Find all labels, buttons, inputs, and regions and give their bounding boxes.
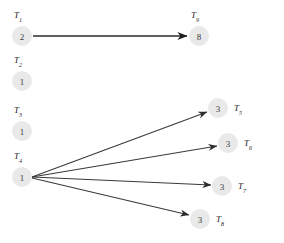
node-label-sub-t9: 9 xyxy=(196,17,199,23)
node-label-sub-t7: 7 xyxy=(243,188,247,194)
node-value-t4: 1 xyxy=(20,173,25,183)
node-label-t8: T8 xyxy=(216,214,224,227)
node-label-t9: T9 xyxy=(191,10,199,23)
edge-t4-to-t8 xyxy=(32,178,189,215)
node-label-sub-t1: 1 xyxy=(19,17,22,23)
node-label-sub-t8: 8 xyxy=(221,221,224,227)
node-value-t8: 3 xyxy=(198,215,203,225)
nodes-layer: 2T11T21T31T43T53T63T73T88T9 xyxy=(12,10,252,229)
node-value-t6: 3 xyxy=(226,139,231,149)
graph-node-t6[interactable]: 3T6 xyxy=(218,133,252,153)
edge-t4-to-t6 xyxy=(32,146,217,177)
node-value-t1: 2 xyxy=(20,32,25,42)
node-value-t5: 3 xyxy=(216,104,221,114)
node-label-sub-t2: 2 xyxy=(19,62,22,68)
graph-node-t4[interactable]: 1T4 xyxy=(12,151,32,187)
node-value-t3: 1 xyxy=(20,127,25,137)
node-label-t6: T6 xyxy=(244,138,252,151)
node-value-t9: 8 xyxy=(197,32,202,42)
node-label-t3: T3 xyxy=(14,105,22,118)
node-label-sub-t3: 3 xyxy=(18,112,22,118)
graph-node-t5[interactable]: 3T5 xyxy=(208,98,242,118)
node-label-sub-t5: 5 xyxy=(239,110,242,116)
graph-node-t8[interactable]: 3T8 xyxy=(190,209,224,229)
edges-layer xyxy=(32,36,217,215)
graph-node-t9[interactable]: 8T9 xyxy=(189,10,209,46)
node-label-t7: T7 xyxy=(238,181,247,194)
node-label-t4: T4 xyxy=(14,151,22,164)
node-label-sub-t6: 6 xyxy=(249,145,252,151)
node-value-t7: 3 xyxy=(220,182,225,192)
node-label-t2: T2 xyxy=(14,55,22,68)
graph-canvas: 2T11T21T31T43T53T63T73T88T9 xyxy=(0,0,284,243)
graph-node-t7[interactable]: 3T7 xyxy=(212,176,247,196)
node-value-t2: 1 xyxy=(20,77,25,87)
edge-t4-to-t5 xyxy=(32,112,207,177)
node-label-sub-t4: 4 xyxy=(19,158,22,164)
graph-node-t1[interactable]: 2T1 xyxy=(12,10,32,46)
graph-diagram: 2T11T21T31T43T53T63T73T88T9 xyxy=(0,0,284,243)
node-label-t1: T1 xyxy=(14,10,22,23)
graph-node-t2[interactable]: 1T2 xyxy=(12,55,32,91)
graph-node-t3[interactable]: 1T3 xyxy=(12,105,32,141)
node-label-t5: T5 xyxy=(234,103,242,116)
